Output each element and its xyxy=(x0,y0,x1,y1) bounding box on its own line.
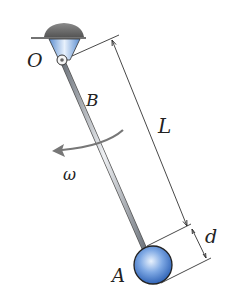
label-a: A xyxy=(110,265,125,286)
label-omega: ω xyxy=(63,165,76,184)
label-o: O xyxy=(27,49,43,71)
ball-a xyxy=(134,246,172,284)
pendulum-diagram: O B L ω d A xyxy=(0,0,237,303)
label-l: L xyxy=(157,114,171,138)
angular-velocity-arrow xyxy=(52,130,123,157)
label-b: B xyxy=(85,90,99,110)
ceiling-support xyxy=(31,23,86,38)
pivot-pin xyxy=(57,55,67,65)
label-d: d xyxy=(205,225,217,247)
